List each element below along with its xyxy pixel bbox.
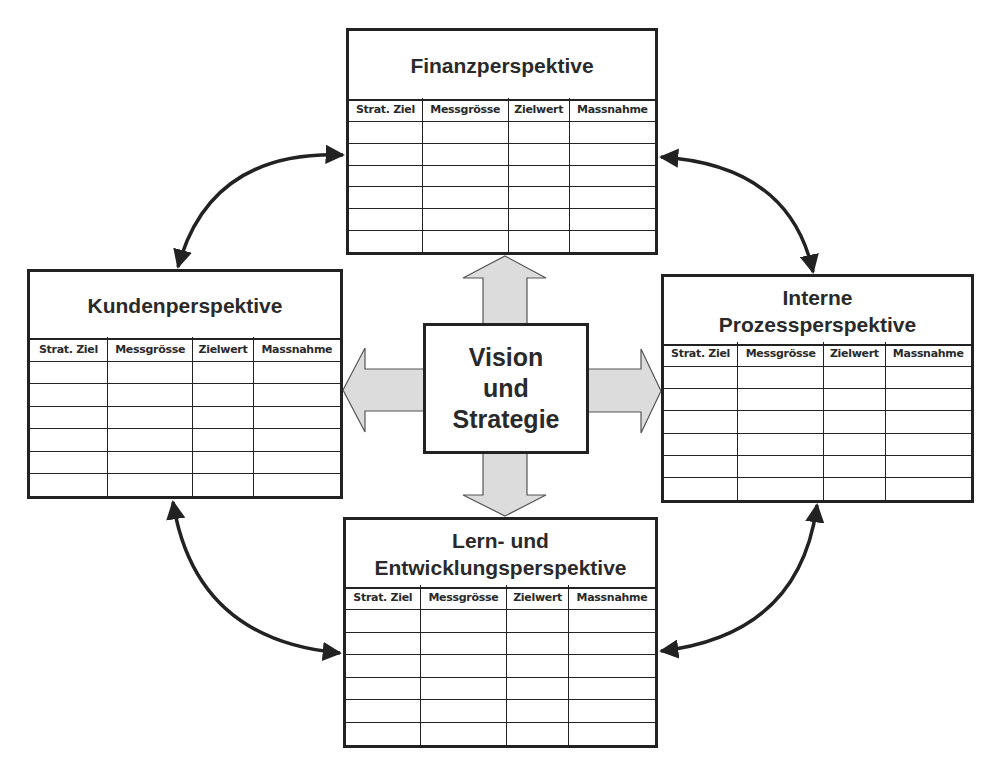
cell[interactable] [346, 677, 420, 700]
cell[interactable] [569, 209, 655, 231]
cell[interactable] [738, 433, 824, 455]
cell[interactable] [422, 187, 508, 209]
cell[interactable] [193, 406, 253, 428]
cell[interactable] [30, 384, 108, 406]
cell[interactable] [193, 474, 253, 496]
cell[interactable] [824, 389, 885, 411]
cell[interactable] [30, 451, 108, 473]
cell[interactable] [824, 411, 885, 433]
cell[interactable] [193, 384, 253, 406]
cell[interactable] [349, 187, 422, 209]
cell[interactable] [664, 411, 738, 433]
cell[interactable] [253, 474, 340, 496]
cell[interactable] [346, 610, 420, 633]
cell[interactable] [507, 632, 569, 655]
cell[interactable] [508, 230, 569, 252]
cell[interactable] [738, 455, 824, 477]
cell[interactable] [349, 165, 422, 187]
cell[interactable] [824, 433, 885, 455]
cell[interactable] [349, 122, 422, 144]
cell[interactable] [664, 455, 738, 477]
table-row [664, 366, 971, 388]
cell[interactable] [507, 677, 569, 700]
cell[interactable] [824, 455, 885, 477]
cell[interactable] [108, 384, 193, 406]
cell[interactable] [569, 187, 655, 209]
cell[interactable] [349, 230, 422, 252]
cell[interactable] [569, 143, 655, 165]
cell[interactable] [346, 700, 420, 723]
cell[interactable] [738, 478, 824, 500]
cell[interactable] [507, 655, 569, 678]
cell[interactable] [349, 209, 422, 231]
cell[interactable] [422, 165, 508, 187]
cell[interactable] [420, 722, 507, 745]
cell[interactable] [664, 389, 738, 411]
cell[interactable] [507, 610, 569, 633]
cell[interactable] [349, 143, 422, 165]
cell[interactable] [824, 366, 885, 388]
cell[interactable] [193, 451, 253, 473]
cell[interactable] [108, 474, 193, 496]
cell[interactable] [568, 610, 655, 633]
cell[interactable] [422, 230, 508, 252]
cell[interactable] [253, 362, 340, 384]
cell[interactable] [253, 406, 340, 428]
cell[interactable] [885, 366, 971, 388]
cell[interactable] [507, 700, 569, 723]
cell[interactable] [568, 700, 655, 723]
cell[interactable] [568, 632, 655, 655]
cell[interactable] [508, 209, 569, 231]
cell[interactable] [108, 362, 193, 384]
cell[interactable] [664, 366, 738, 388]
cell[interactable] [108, 451, 193, 473]
cell[interactable] [569, 230, 655, 252]
cell[interactable] [885, 478, 971, 500]
cell[interactable] [664, 478, 738, 500]
cell[interactable] [108, 429, 193, 451]
cell[interactable] [420, 655, 507, 678]
cell[interactable] [193, 429, 253, 451]
cell[interactable] [30, 362, 108, 384]
cell[interactable] [422, 209, 508, 231]
cell[interactable] [420, 677, 507, 700]
cell[interactable] [738, 389, 824, 411]
cell[interactable] [253, 451, 340, 473]
header-row: Strat. Ziel Messgrösse Zielwert Massnahm… [346, 585, 655, 610]
cell[interactable] [422, 143, 508, 165]
cell[interactable] [568, 722, 655, 745]
box-title: Finanzperspektive [349, 31, 655, 101]
cell[interactable] [108, 406, 193, 428]
cell[interactable] [346, 632, 420, 655]
cell[interactable] [885, 455, 971, 477]
cell[interactable] [253, 429, 340, 451]
cell[interactable] [346, 655, 420, 678]
cell[interactable] [420, 610, 507, 633]
cell[interactable] [30, 406, 108, 428]
cell[interactable] [508, 165, 569, 187]
cell[interactable] [508, 122, 569, 144]
cell[interactable] [568, 677, 655, 700]
cell[interactable] [885, 411, 971, 433]
cell[interactable] [569, 165, 655, 187]
cell[interactable] [508, 143, 569, 165]
cell[interactable] [422, 122, 508, 144]
cell[interactable] [253, 384, 340, 406]
title-line: Finanzperspektive [410, 52, 593, 79]
cell[interactable] [738, 411, 824, 433]
cell[interactable] [569, 122, 655, 144]
cell[interactable] [507, 722, 569, 745]
cell[interactable] [568, 655, 655, 678]
cell[interactable] [885, 433, 971, 455]
cell[interactable] [346, 722, 420, 745]
cell[interactable] [824, 478, 885, 500]
cell[interactable] [420, 632, 507, 655]
cell[interactable] [30, 429, 108, 451]
cell[interactable] [30, 474, 108, 496]
cell[interactable] [508, 187, 569, 209]
cell[interactable] [420, 700, 507, 723]
cell[interactable] [664, 433, 738, 455]
cell[interactable] [885, 389, 971, 411]
cell[interactable] [193, 362, 253, 384]
cell[interactable] [738, 366, 824, 388]
